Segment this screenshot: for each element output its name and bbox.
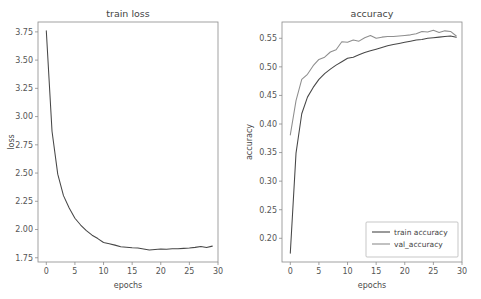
train-loss-ytick-label: 2.00 <box>15 225 33 234</box>
train-loss-ytick-label: 1.75 <box>15 254 33 263</box>
train-loss-xtick-label: 10 <box>98 267 108 276</box>
accuracy-ytick-label: 0.45 <box>259 91 277 100</box>
accuracy-xtick-label: 15 <box>371 267 381 276</box>
train-loss-xtick-label: 5 <box>72 267 77 276</box>
train-loss-plot-frame <box>38 22 218 262</box>
train-loss-xtick-label: 15 <box>127 267 137 276</box>
accuracy-ytick-label: 0.20 <box>259 234 277 243</box>
matplotlib-figure: train loss0510152025301.752.002.252.502.… <box>0 0 481 299</box>
accuracy-ytick-label: 0.50 <box>259 63 277 72</box>
accuracy-chart: accuracy0510152025300.200.250.300.350.40… <box>240 0 481 299</box>
accuracy-title: accuracy <box>351 8 394 19</box>
series-line-train-loss <box>46 31 212 250</box>
train-loss-chart: train loss0510152025301.752.002.252.502.… <box>0 0 240 299</box>
train-loss-xtick-label: 20 <box>156 267 166 276</box>
accuracy-ytick-label: 0.35 <box>259 148 277 157</box>
train-loss-xtick-label: 0 <box>44 267 49 276</box>
train-loss-ytick-label: 3.75 <box>15 28 33 37</box>
train-loss-ytick-label: 3.25 <box>15 84 33 93</box>
train-loss-ytick-label: 3.00 <box>15 112 33 121</box>
subplot-accuracy: accuracy0510152025300.200.250.300.350.40… <box>240 0 481 299</box>
train-loss-ytick-label: 2.25 <box>15 197 33 206</box>
accuracy-yaxis-label: accuracy <box>245 124 254 160</box>
subplot-train-loss: train loss0510152025301.752.002.252.502.… <box>0 0 240 299</box>
train-loss-xtick-label: 30 <box>213 267 223 276</box>
train-loss-ytick-label: 2.50 <box>15 169 33 178</box>
legend-label-val-accuracy: val_accuracy <box>394 240 443 249</box>
accuracy-xtick-label: 5 <box>316 267 321 276</box>
accuracy-ytick-label: 0.40 <box>259 120 277 129</box>
accuracy-ytick-label: 0.25 <box>259 206 277 215</box>
train-loss-ytick-label: 2.75 <box>15 141 33 150</box>
series-line-val-accuracy <box>290 30 456 135</box>
series-line-train-accuracy <box>290 36 456 253</box>
train-loss-xtick-label: 25 <box>184 267 194 276</box>
accuracy-ytick-label: 0.30 <box>259 177 277 186</box>
legend-label-train-accuracy: train accuracy <box>394 228 448 237</box>
train-loss-title: train loss <box>106 8 150 19</box>
accuracy-xaxis-label: epochs <box>358 281 387 290</box>
accuracy-xtick-label: 0 <box>288 267 293 276</box>
accuracy-xtick-label: 25 <box>428 267 438 276</box>
train-loss-xaxis-label: epochs <box>114 281 143 290</box>
accuracy-xtick-label: 30 <box>457 267 467 276</box>
train-loss-yaxis-label: loss <box>7 134 16 149</box>
train-loss-ytick-label: 3.50 <box>15 56 33 65</box>
accuracy-xtick-label: 10 <box>342 267 352 276</box>
accuracy-ytick-label: 0.55 <box>259 34 277 43</box>
accuracy-xtick-label: 20 <box>400 267 410 276</box>
